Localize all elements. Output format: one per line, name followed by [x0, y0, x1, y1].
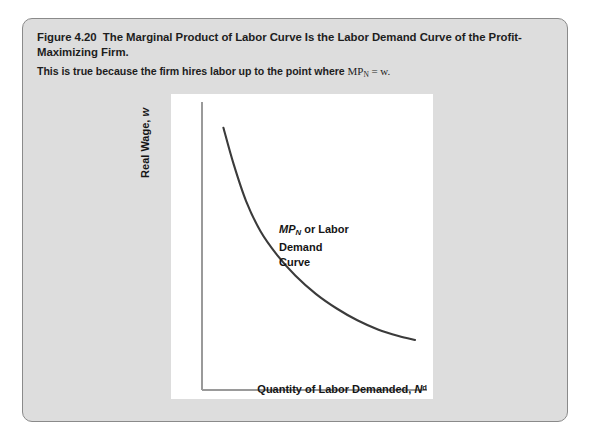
curve-label-line2: Curve	[279, 256, 310, 268]
subtitle-math-expression: MPN = w.	[348, 65, 391, 77]
figure-panel: Figure 4.20 The Marginal Product of Labo…	[22, 18, 568, 422]
subtitle-math-base: MP	[348, 65, 364, 77]
y-axis-label-text: Real Wage,	[139, 117, 151, 178]
figure-title-line: Figure 4.20 The Marginal Product of Labo…	[37, 30, 553, 60]
curve-annotation-label: MPN or Labor Demand Curve	[279, 222, 395, 269]
subtitle-math-rest: = w.	[369, 65, 390, 77]
x-axis-label: Quantity of Labor Demanded, Nd	[171, 383, 427, 395]
chart-plot-area: Real Wage, w MPN or Labor Demand Curve Q…	[171, 94, 433, 399]
figure-title-text: The Marginal Product of Labor Curve Is t…	[37, 31, 522, 58]
x-axis-label-text: Quantity of Labor Demanded,	[257, 383, 414, 395]
x-axis-label-superscript: d	[422, 383, 427, 392]
chart-inner: Real Wage, w MPN or Labor Demand Curve Q…	[171, 94, 433, 399]
y-axis-label-symbol: w	[139, 108, 151, 117]
figure-label: Figure 4.20	[37, 31, 97, 43]
y-axis-label: Real Wage, w	[139, 108, 151, 228]
curve-label-math-base: MP	[279, 223, 296, 235]
figure-subtitle: This is true because the firm hires labo…	[37, 64, 553, 82]
figure-caption: Figure 4.20 The Marginal Product of Labo…	[37, 30, 553, 82]
figure-subtitle-text: This is true because the firm hires labo…	[37, 65, 345, 77]
